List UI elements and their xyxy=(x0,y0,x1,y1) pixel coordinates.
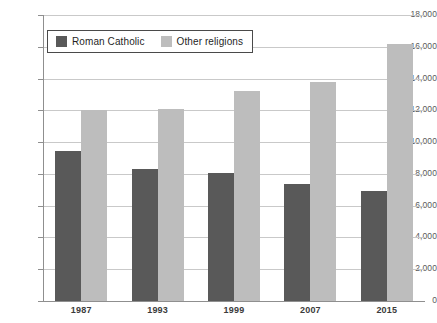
gridline xyxy=(43,79,425,80)
x-axis-line xyxy=(43,301,425,302)
plot-area xyxy=(43,15,425,301)
chart-legend: Roman CatholicOther religions xyxy=(47,30,253,53)
x-axis-tick-label: 1999 xyxy=(199,305,269,315)
x-axis-tick-label: 1987 xyxy=(46,305,116,315)
legend-swatch-icon xyxy=(161,36,172,47)
legend-label: Roman Catholic xyxy=(72,36,145,47)
bar-chart: 02,0004,0006,0008,00010,00012,00014,0001… xyxy=(0,0,437,323)
bar-2015-other-religions xyxy=(387,44,413,301)
x-axis-tick-label: 2015 xyxy=(352,305,422,315)
bar-1993-roman-catholic xyxy=(132,169,158,301)
bar-1987-other-religions xyxy=(81,110,107,301)
bar-2015-roman-catholic xyxy=(361,191,387,301)
x-axis-tick-label: 1993 xyxy=(123,305,193,315)
bar-2007-roman-catholic xyxy=(284,184,310,301)
y-axis-line xyxy=(43,15,44,302)
bar-1999-other-religions xyxy=(234,91,260,301)
gridline xyxy=(43,15,425,16)
legend-swatch-icon xyxy=(56,36,67,47)
x-axis-tick-label: 2007 xyxy=(275,305,345,315)
legend-entry-roman-catholic: Roman Catholic xyxy=(56,36,145,47)
bar-1993-other-religions xyxy=(158,109,184,301)
bar-2007-other-religions xyxy=(310,82,336,301)
legend-label: Other religions xyxy=(177,36,244,47)
legend-entry-other-religions: Other religions xyxy=(161,36,244,47)
bar-1987-roman-catholic xyxy=(55,151,81,301)
bar-1999-roman-catholic xyxy=(208,173,234,301)
